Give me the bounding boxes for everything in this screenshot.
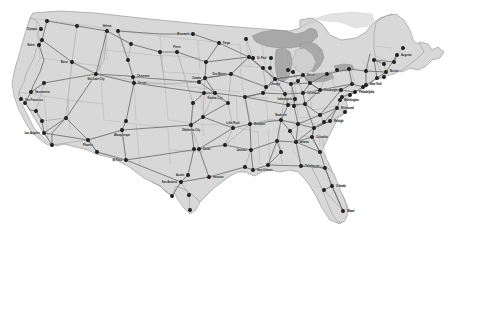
city-dot[interactable]: Sioux Falls [204,60,208,64]
map-canvas[interactable]: SeattleOlympiaSpokanePortlandSalemBoiseH… [0,0,479,309]
city-dot[interactable]: Cheyenne [131,75,135,79]
city-dot[interactable]: Buffalo [325,72,329,76]
city-dot[interactable]: Tulsa [201,115,205,119]
city-dot[interactable]: Tucson [95,150,99,154]
city-dot[interactable]: Charlotte [312,126,316,130]
city-dot[interactable]: Salem [37,43,41,47]
city-dot[interactable]: Montpelier [372,58,376,62]
city-dot[interactable]: Billings [129,42,133,46]
city-dot[interactable]: El Paso [124,158,128,162]
city-dot[interactable]: Casper [126,58,130,62]
city-dot[interactable]: Knoxville [296,122,300,126]
city-dot[interactable]: Charleston WV [303,102,307,106]
city-dot[interactable]: Mobile [266,163,270,167]
city-dot[interactable]: Omaha [203,76,207,80]
city-dot[interactable]: Fort Wayne [289,82,293,86]
city-dot[interactable]: Grand Rapids [286,68,290,72]
city-dot[interactable]: Bakersfield [40,119,44,123]
city-dot[interactable]: Detroit [301,73,305,77]
city-dot[interactable]: Bangor [401,46,405,50]
city-dot[interactable]: Denver [132,81,136,85]
city-dot[interactable]: Montgomery [279,150,283,154]
city-dot[interactable]: Madison [261,66,265,70]
city-dot[interactable]: Sacramento [29,90,33,94]
city-dot[interactable]: Shreveport [223,143,227,147]
city-dot[interactable]: Spokane [75,24,79,28]
city-dot[interactable]: Hartford [375,76,379,80]
city-dot[interactable]: Augusta [395,53,399,57]
city-dot[interactable]: Columbia [310,135,314,139]
city-dot[interactable]: Salt Lake City [94,72,98,76]
city-dot[interactable]: Duluth [244,37,248,41]
city-dot[interactable]: Orlando [330,184,334,188]
city-dot[interactable]: Philadelphia [353,90,357,94]
city-dot[interactable]: Tallahassee [299,164,303,168]
city-dot[interactable]: San Francisco [19,97,23,101]
city-dot[interactable]: San Antonio [179,180,183,184]
city-dot[interactable]: Santa Fe [124,119,128,123]
city-dot[interactable]: Boise [70,60,74,64]
city-dot[interactable]: Miami [341,209,345,213]
city-dot[interactable]: Laredo [170,194,174,198]
city-dot[interactable]: Columbus [301,91,305,95]
city-dot[interactable]: Rochester [335,68,339,72]
city-dot[interactable]: Peoria [264,85,268,89]
city-dot[interactable]: Jacksonville [323,166,327,170]
city-dot[interactable]: Cincinnati [293,97,297,101]
city-dot[interactable]: Cleveland [308,81,312,85]
city-dot[interactable]: Scranton [350,82,354,86]
city-dot[interactable]: Brownsville [188,208,192,212]
city-dot[interactable]: Springfield [226,101,230,105]
city-dot[interactable]: Des Moines [229,72,233,76]
city-dot[interactable]: Savannah [318,150,322,154]
city-dot[interactable]: Jackson [249,148,253,152]
city-dot[interactable]: Albany [364,69,368,73]
city-dot[interactable]: Great Falls [116,29,120,33]
city-dot[interactable]: Toledo [296,79,300,83]
city-dot[interactable]: Kansas City [213,91,217,95]
city-dot[interactable]: Concord [382,62,386,66]
city-dot[interactable]: Fresno [34,109,38,113]
city-dot[interactable]: Newark [361,85,365,89]
city-dot[interactable]: Lansing [291,70,295,74]
city-dot[interactable]: Oklahoma City [189,123,193,127]
city-dot[interactable]: Memphis [248,122,252,126]
city-dot[interactable]: Syracuse [347,67,351,71]
city-dot[interactable]: Fargo [217,41,221,45]
city-dot[interactable]: Pierre [175,50,179,54]
city-dot[interactable]: Springfield IL [261,91,265,95]
city-dot[interactable]: Portland [40,38,44,42]
city-dot[interactable]: Boston [384,70,388,74]
city-dot[interactable]: Lexington [292,104,296,108]
city-dot[interactable]: Lincoln [197,80,201,84]
city-dot[interactable]: Louisville [286,103,290,107]
city-dot[interactable]: Rapid City [158,50,162,54]
city-dot[interactable]: San Diego [50,143,54,147]
city-dot[interactable]: Minneapolis [247,55,251,59]
city-dot[interactable]: Tampa [322,188,326,192]
city-dot[interactable]: New Orleans [251,168,255,172]
city-dot[interactable]: Bismarck [191,32,195,36]
city-dot[interactable]: Phoenix [86,138,90,142]
city-dot[interactable]: Milwaukee [268,66,272,70]
city-dot[interactable]: Dallas [197,147,201,151]
city-dot[interactable]: Las Vegas [64,116,68,120]
city-dot[interactable]: Providence [382,75,386,79]
city-dot[interactable]: Chattanooga [288,129,292,133]
city-dot[interactable]: St. Paul [251,56,255,60]
city-dot[interactable]: Austin [186,173,190,177]
city-dot[interactable]: Olympia [39,27,43,31]
city-dot[interactable]: Green Bay [269,56,273,60]
city-dot[interactable]: Corpus Christi [187,193,191,197]
city-dot[interactable]: Richmond [335,106,339,110]
city-dot[interactable]: Topeka [202,91,206,95]
city-dot[interactable]: Houston [207,175,211,179]
city-dot[interactable]: Portland ME [392,60,396,64]
city-dot[interactable]: Raleigh [328,119,332,123]
city-dot[interactable]: Los Angeles [42,131,46,135]
us-highway-map[interactable]: SeattleOlympiaSpokanePortlandSalemBoiseH… [0,0,479,309]
city-dot[interactable]: St. Louis [243,95,247,99]
city-dot[interactable]: Greensboro [322,120,326,124]
city-dot[interactable]: Wilmington [348,93,352,97]
city-dot[interactable]: Helena [105,29,109,33]
